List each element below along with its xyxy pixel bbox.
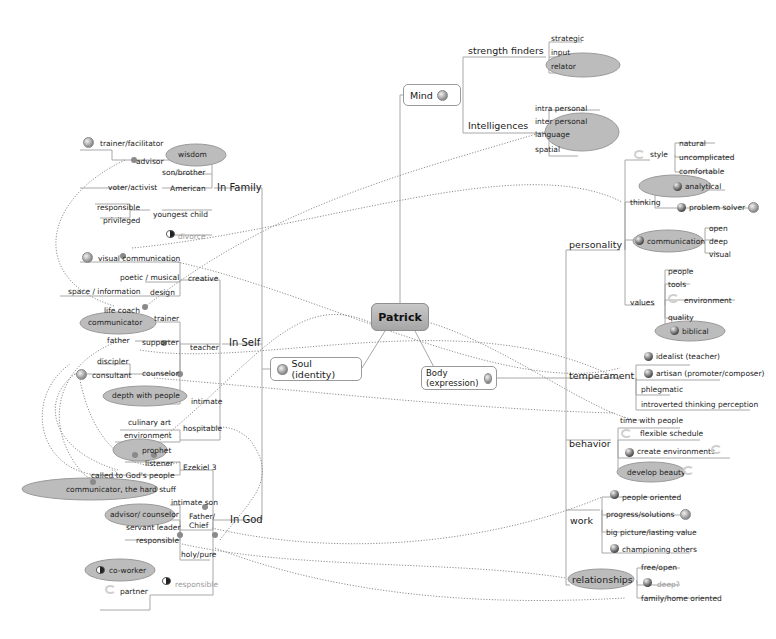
topic-servant-leader[interactable]: servant leader (126, 523, 180, 532)
topic-in-self[interactable]: In Self (229, 337, 260, 349)
topic-progress-solutions[interactable]: progress/solutions (606, 510, 675, 519)
topic-analytical[interactable]: analytical (685, 182, 721, 191)
sphere-icon (670, 326, 679, 335)
topic-depth-with-people[interactable]: depth with people (112, 391, 180, 400)
topic-privileged[interactable]: privileged (103, 216, 140, 225)
topic-natural[interactable]: natural (679, 139, 706, 148)
topic-culinary-art[interactable]: culinary art (128, 418, 171, 427)
topic-thinking[interactable]: thinking (630, 198, 660, 207)
topic-free-open[interactable]: free/open (641, 563, 677, 572)
topic-inter-personal[interactable]: inter personal (535, 117, 587, 126)
topic-trainer[interactable]: trainer (154, 314, 179, 323)
topic-phlegmatic[interactable]: phlegmatic (641, 385, 683, 394)
topic-design[interactable]: design (150, 288, 175, 297)
topic-listener[interactable]: listener (145, 459, 173, 468)
topic-communicator-hard-stuff[interactable]: communicator, the hard stuff (66, 485, 176, 494)
topic-called-to-gods-people[interactable]: called to God's people (91, 471, 175, 480)
topic-co-worker[interactable]: co-worker (109, 566, 146, 575)
sphere-icon (610, 544, 619, 553)
topic-communicator[interactable]: communicator (88, 318, 142, 327)
topic-life-coach[interactable]: life coach (104, 306, 140, 315)
topic-style[interactable]: style (650, 150, 668, 159)
topic-divorce[interactable]: divorce (178, 232, 206, 241)
topic-deep[interactable]: deep (709, 237, 728, 246)
topic-spatial[interactable]: spatial (535, 145, 560, 154)
topic-in-family[interactable]: In Family (217, 182, 262, 194)
topic-visual-communication[interactable]: visual communication (98, 254, 180, 263)
topic-values-environment[interactable]: environment (684, 296, 732, 305)
topic-father[interactable]: father (107, 336, 130, 345)
topic-family-home-oriented[interactable]: family/home oriented (641, 594, 722, 603)
topic-discipler[interactable]: discipler (97, 357, 129, 366)
topic-championing-others[interactable]: championing others (622, 545, 697, 554)
topic-in-god[interactable]: In God (230, 514, 263, 526)
topic-input[interactable]: input (551, 48, 570, 57)
topic-deep-question[interactable]: deep? (657, 580, 680, 589)
topic-father-chief[interactable]: Father/ Chief (189, 512, 217, 530)
topic-tools[interactable]: tools (668, 280, 686, 289)
central-topic-patrick[interactable]: Patrick (371, 303, 429, 331)
topic-counselor[interactable]: counselor (142, 369, 179, 378)
topic-develop-beauty[interactable]: develop beauty (627, 468, 685, 477)
topic-hospitable[interactable]: hospitable (183, 424, 222, 433)
topic-artisan[interactable]: artisan (promoter/composer) (656, 369, 765, 378)
topic-work[interactable]: work (570, 515, 593, 526)
topic-people-oriented[interactable]: people oriented (622, 493, 681, 502)
topic-problem-solver[interactable]: problem solver (689, 203, 745, 212)
topic-wisdom[interactable]: wisdom (178, 150, 207, 159)
topic-biblical[interactable]: biblical (682, 327, 709, 336)
branch-mind[interactable]: Mind (403, 84, 461, 106)
topic-partner[interactable]: partner (120, 587, 148, 596)
topic-uncomplicated[interactable]: uncomplicated (679, 153, 735, 162)
sphere-icon (644, 369, 653, 378)
topic-advisor[interactable]: advisor (136, 157, 163, 166)
topic-son-brother[interactable]: son/brother (162, 168, 205, 177)
topic-responsible[interactable]: responsible (97, 203, 140, 212)
topic-temperament[interactable]: temperament (569, 370, 634, 381)
topic-teacher[interactable]: teacher (190, 343, 219, 352)
topic-introverted-thinking-perception[interactable]: introverted thinking perception (641, 400, 758, 409)
topic-intimate-son[interactable]: intimate son (171, 498, 218, 507)
topic-relator[interactable]: relator (551, 62, 576, 71)
topic-create-environments[interactable]: create environments (637, 447, 715, 456)
topic-visual[interactable]: visual (709, 250, 731, 259)
topic-comfortable[interactable]: comfortable (679, 167, 724, 176)
topic-relationships[interactable]: relationships (572, 574, 633, 585)
topic-values[interactable]: values (630, 298, 654, 307)
topic-intra-personal[interactable]: intra personal (535, 104, 587, 113)
topic-holy-pure[interactable]: holy/pure (181, 550, 216, 559)
topic-idealist[interactable]: idealist (teacher) (656, 352, 720, 361)
globe-icon (76, 369, 87, 380)
topic-advisor-counselor[interactable]: advisor/ counselor (110, 510, 179, 519)
topic-people[interactable]: people (668, 267, 693, 276)
topic-trainer-facilitator[interactable]: trainer/facilitator (100, 139, 163, 148)
topic-voter-activist[interactable]: voter/activist (108, 183, 157, 192)
topic-american[interactable]: American (170, 184, 206, 193)
topic-intelligences[interactable]: Intelligences (468, 120, 528, 131)
topic-responsible-dim[interactable]: responsible (175, 580, 218, 589)
topic-environment[interactable]: environment (124, 431, 172, 440)
topic-prophet[interactable]: prophet (142, 446, 171, 455)
topic-intimate[interactable]: intimate (191, 397, 222, 406)
topic-open[interactable]: open (709, 224, 728, 233)
topic-language[interactable]: language (535, 130, 570, 139)
topic-personality[interactable]: personality (569, 239, 622, 250)
topic-quality[interactable]: quality (668, 313, 694, 322)
topic-strength-finders[interactable]: strength finders (468, 45, 544, 56)
topic-big-picture[interactable]: big picture/lasting value (606, 528, 697, 537)
topic-responsible[interactable]: responsible (136, 536, 179, 545)
topic-space-information[interactable]: space / information (68, 287, 141, 296)
topic-poetic-musical[interactable]: poetic / musical (120, 273, 179, 282)
globe-icon (748, 202, 759, 213)
topic-supporter[interactable]: supporter (142, 338, 179, 347)
topic-flexible-schedule[interactable]: flexible schedule (640, 429, 703, 438)
topic-time-with-people[interactable]: time with people (620, 416, 683, 425)
topic-ezekiel-3[interactable]: Ezekiel 3 (183, 463, 217, 472)
topic-behavior[interactable]: behavior (569, 438, 611, 449)
branch-soul[interactable]: Soul (identity) (270, 357, 362, 381)
topic-creative[interactable]: creative (188, 274, 218, 283)
branch-body[interactable]: Body (expression) (421, 366, 497, 390)
topic-youngest-child[interactable]: youngest child (153, 210, 208, 219)
topic-consultant[interactable]: consultant (92, 371, 131, 380)
topic-strategic[interactable]: strategic (551, 34, 584, 43)
